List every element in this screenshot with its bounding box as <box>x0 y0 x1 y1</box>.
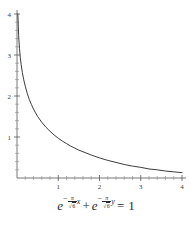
radicand-left: 6 <box>72 202 76 209</box>
exponent-right: −π√6y <box>98 195 115 210</box>
y-tick-label: 2 <box>8 93 12 101</box>
fraction-denominator-right: √6 <box>102 203 111 209</box>
exponent-left: −π√6x <box>63 195 80 210</box>
right-hand-side: 1 <box>126 198 137 213</box>
plot-svg: 1234 1234 <box>0 0 194 192</box>
plot-area: 1234 1234 <box>0 0 194 192</box>
x-tick-label: 2 <box>98 183 102 191</box>
x-tick-label: 1 <box>57 183 61 191</box>
data-curve <box>18 14 182 173</box>
exponent-variable-x: x <box>77 197 81 206</box>
x-tick-label: 3 <box>139 183 143 191</box>
x-tick-labels: 1234 <box>57 183 185 191</box>
equals-operator: = <box>115 198 126 213</box>
x-tick-label: 4 <box>180 183 184 191</box>
exponent-variable-y: y <box>111 197 115 206</box>
y-tick-labels: 1234 <box>8 11 12 142</box>
fraction-right: π√6 <box>102 195 111 210</box>
radicand-right: 6 <box>106 202 110 209</box>
equation-expression: e−π√6x+e−π√6y=1 <box>57 196 137 212</box>
figure-container: 1234 1234 e−π√6x+e−π√6y=1 <box>0 0 194 238</box>
y-tick-label: 1 <box>8 134 12 142</box>
axes-group <box>17 10 186 178</box>
fraction-denominator-left: √6 <box>68 203 77 209</box>
y-tick-label: 3 <box>8 52 12 60</box>
fraction-numerator-left: π <box>68 195 77 201</box>
equation-caption: e−π√6x+e−π√6y=1 <box>0 196 194 214</box>
y-tick-label: 4 <box>8 11 12 19</box>
fraction-numerator-right: π <box>102 195 111 201</box>
plus-operator: + <box>80 198 91 213</box>
fraction-left: π√6 <box>68 195 77 210</box>
